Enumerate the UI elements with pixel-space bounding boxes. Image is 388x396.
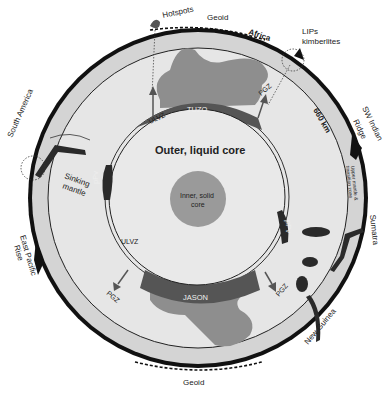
- label-geoid-bottom: Geoid: [183, 378, 204, 387]
- lips-feature: [294, 48, 304, 60]
- slab-blob-2: [302, 257, 318, 267]
- inner-core: [170, 171, 226, 227]
- earth-cross-section-diagram: Hotspots Geoid Africa LIPs kimberlites 6…: [0, 0, 388, 396]
- label-tuzo: TUZO: [187, 105, 208, 114]
- label-inner-core-2: core: [191, 201, 205, 208]
- slab-blob-1: [302, 227, 330, 237]
- label-south-america: South America: [6, 87, 36, 139]
- label-geoid-top: Geoid: [207, 13, 228, 22]
- label-ppv-right: pPv: [284, 220, 293, 233]
- label-sumatra: Sumatra: [368, 214, 380, 246]
- label-jason: JASON: [183, 293, 208, 302]
- label-lips: LIPs: [302, 27, 318, 36]
- label-outer-core: Outer, liquid core: [155, 144, 245, 156]
- slab-blob-3: [296, 276, 308, 292]
- label-kimberlites: kimberlites: [302, 37, 340, 46]
- label-inner-core-1: Inner, solid: [180, 192, 214, 199]
- label-ppv-left: pPv: [91, 171, 100, 184]
- hotspot-feature: [150, 20, 160, 29]
- label-hotspots: Hotspots: [162, 5, 195, 20]
- label-ulvz-bottom: ULVZ: [121, 238, 139, 245]
